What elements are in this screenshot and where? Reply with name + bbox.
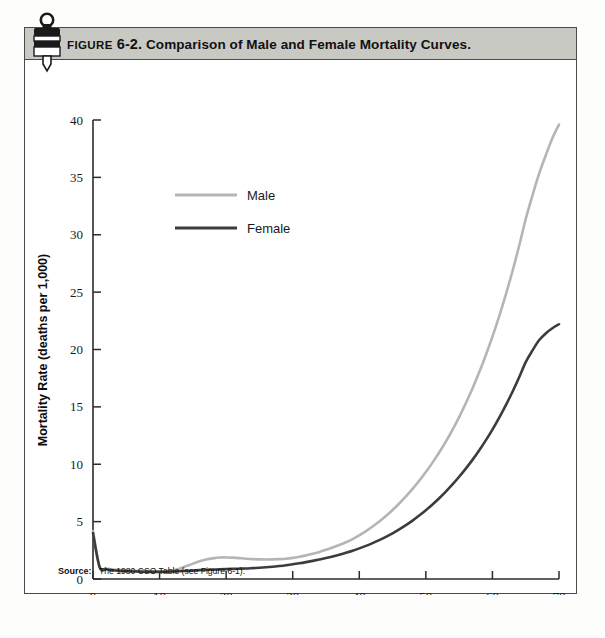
y-tick-label: 25 <box>70 285 83 300</box>
y-axis-ticks <box>93 120 101 579</box>
source-label: Source: <box>58 566 92 576</box>
chart-legend: MaleFemale <box>175 188 290 236</box>
series-line-male <box>93 125 559 572</box>
chart-series-group <box>93 125 559 572</box>
plot-area: 0510152025303540 010203040506070 MaleFem… <box>25 60 576 595</box>
y-tick-label: 30 <box>70 227 83 242</box>
y-tick-label: 5 <box>77 514 84 529</box>
source-text: The 1980 CSO Table (see Figure 6-1). <box>99 566 245 576</box>
x-tick-label: 30 <box>286 589 299 595</box>
x-axis-tick-labels: 010203040506070 <box>90 589 566 595</box>
figure-caption-text: Comparison of Male and Female Mortality … <box>146 37 471 52</box>
figure-root: FIGURE 6-2. Comparison of Male and Femal… <box>0 0 605 638</box>
y-tick-label: 35 <box>70 170 83 185</box>
y-axis-tick-labels: 0510152025303540 <box>70 113 83 587</box>
y-tick-label: 20 <box>70 342 83 357</box>
y-tick-label: 10 <box>70 457 83 472</box>
mortality-line-chart: 0510152025303540 010203040506070 MaleFem… <box>25 60 575 595</box>
y-axis-title: Mortality Rate (deaths per 1,000) <box>36 254 50 446</box>
x-tick-label: 20 <box>220 589 233 595</box>
series-line-female <box>93 324 559 572</box>
x-tick-label: 60 <box>486 589 499 595</box>
figure-container: FIGURE 6-2. Comparison of Male and Femal… <box>24 27 577 594</box>
y-tick-label: 15 <box>70 399 83 414</box>
figure-label-word: FIGURE <box>67 39 113 51</box>
x-tick-label: 10 <box>153 589 166 595</box>
figure-caption-bar: FIGURE 6-2. Comparison of Male and Femal… <box>25 28 576 60</box>
y-tick-label: 40 <box>70 113 83 128</box>
figure-number: 6-2. <box>117 36 142 52</box>
figure-caption: FIGURE 6-2. Comparison of Male and Femal… <box>67 36 471 52</box>
legend-label-female: Female <box>247 221 290 236</box>
x-tick-label: 0 <box>90 589 97 595</box>
figure-source: Source: The 1980 CSO Table (see Figure 6… <box>58 566 245 576</box>
legend-label-male: Male <box>247 188 275 203</box>
x-tick-label: 50 <box>419 589 432 595</box>
x-tick-label: 70 <box>553 589 566 595</box>
bookmark-tag-icon <box>31 12 63 74</box>
x-tick-label: 40 <box>353 589 366 595</box>
